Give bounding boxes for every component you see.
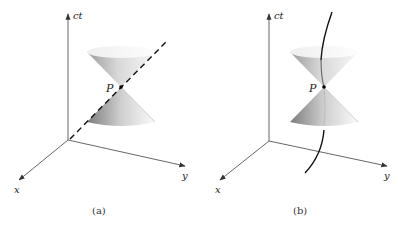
- event-point: [322, 85, 326, 89]
- y-axis: [68, 140, 185, 166]
- x-axis: [19, 140, 68, 180]
- x-axis-label: x: [14, 184, 20, 195]
- x-axis-label: x: [215, 184, 221, 195]
- y-axis: [269, 141, 387, 166]
- ct-axis-label: ct: [73, 10, 84, 21]
- y-axis-label: y: [383, 170, 390, 181]
- event-label: P: [105, 82, 114, 95]
- ct-axis-label: ct: [274, 10, 285, 21]
- future-light-cone: [290, 46, 358, 87]
- panel-b: ct y x P (b): [215, 10, 390, 216]
- light-cone-figure: ct y x P (a) ct y x: [0, 0, 398, 225]
- panel-a: ct y x P (a): [14, 10, 188, 216]
- panel-caption: (b): [293, 205, 307, 216]
- panel-caption: (a): [92, 205, 106, 216]
- event-point: [119, 85, 123, 89]
- future-light-cone: [87, 46, 155, 87]
- y-axis-label: y: [181, 170, 188, 181]
- event-label: P: [308, 82, 317, 95]
- x-axis: [220, 141, 269, 180]
- past-light-cone: [87, 87, 155, 126]
